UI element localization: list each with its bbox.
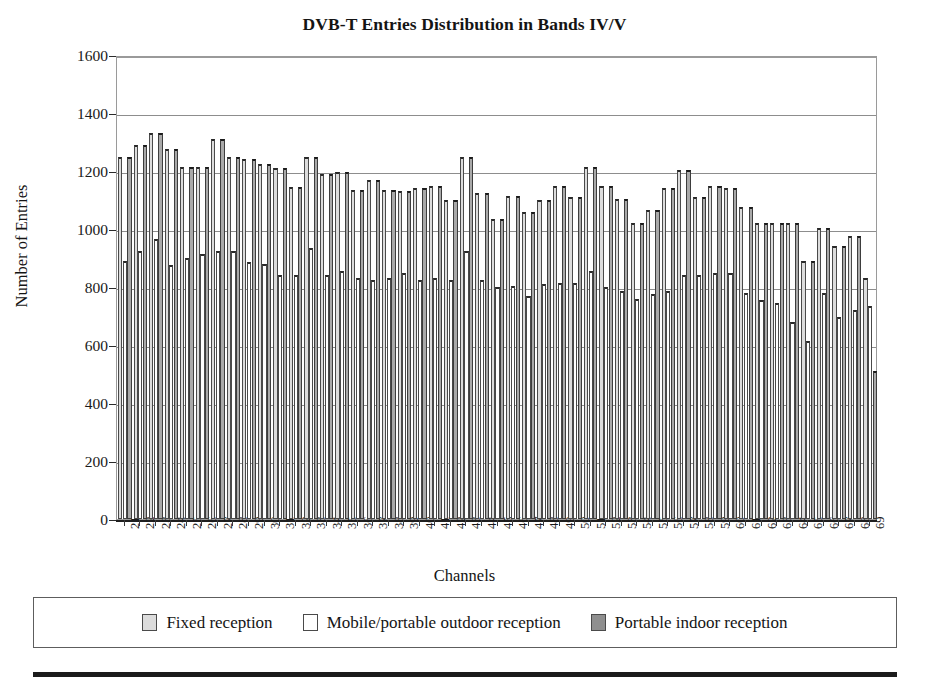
legend-label: Fixed reception <box>166 613 272 633</box>
y-axis-title: Number of Entries <box>12 76 32 416</box>
bar <box>646 210 650 519</box>
y-tick-mark <box>109 114 116 115</box>
x-tick-mark <box>683 520 684 526</box>
bar <box>189 167 193 519</box>
bar <box>686 170 690 519</box>
x-tick-mark <box>357 520 358 526</box>
bar <box>418 280 422 519</box>
x-tick-mark <box>823 520 824 526</box>
x-tick-mark <box>186 520 187 526</box>
bar <box>227 157 231 520</box>
bar <box>356 278 360 519</box>
bar <box>314 157 318 520</box>
x-tick-mark <box>636 520 637 526</box>
bar <box>262 264 266 519</box>
bar <box>671 188 675 519</box>
bar <box>320 174 324 519</box>
bar <box>811 261 815 519</box>
bar <box>267 164 271 519</box>
plot-area <box>116 56 877 520</box>
bar <box>522 212 526 519</box>
bar <box>717 186 721 520</box>
bar <box>655 210 659 519</box>
x-tick-mark <box>854 520 855 526</box>
y-tick-label: 0 <box>26 511 108 529</box>
bar <box>780 223 784 519</box>
x-tick-mark <box>714 520 715 526</box>
bar <box>387 278 391 519</box>
bar <box>662 188 666 519</box>
x-tick-mark <box>838 520 839 526</box>
bar <box>460 157 464 520</box>
x-tick-mark <box>295 520 296 526</box>
bar <box>127 157 131 520</box>
bar <box>837 317 841 519</box>
bar <box>728 273 732 520</box>
bar <box>868 306 872 519</box>
bar <box>138 251 142 519</box>
x-axis-title: Channels <box>0 566 929 586</box>
y-tick-label: 1400 <box>26 105 108 123</box>
chart-legend: Fixed receptionMobile/portable outdoor r… <box>33 597 897 648</box>
x-tick-mark <box>729 520 730 526</box>
bar <box>407 191 411 519</box>
bar <box>526 296 530 519</box>
bar <box>200 254 204 519</box>
x-tick-mark <box>434 520 435 526</box>
bar <box>615 199 619 519</box>
x-tick-mark <box>248 520 249 526</box>
bar <box>775 303 779 519</box>
bar <box>196 167 200 519</box>
gridline <box>117 57 876 58</box>
x-tick-mark <box>605 520 606 526</box>
x-tick-mark <box>201 520 202 526</box>
bar <box>118 157 122 520</box>
y-tick-mark <box>109 56 116 57</box>
bar <box>786 223 790 519</box>
bar <box>298 187 302 519</box>
x-tick-mark <box>776 520 777 526</box>
y-tick-label: 1000 <box>26 221 108 239</box>
y-tick-mark <box>109 288 116 289</box>
bar <box>180 167 184 519</box>
bar <box>744 293 748 519</box>
bar <box>708 186 712 520</box>
legend-item: Fixed reception <box>142 613 272 633</box>
x-tick-mark <box>512 520 513 526</box>
bar <box>863 278 867 519</box>
bar <box>449 280 453 519</box>
bar <box>252 159 256 519</box>
y-tick-mark <box>109 230 116 231</box>
bar <box>273 168 277 519</box>
x-tick-mark <box>450 520 451 526</box>
figure: DVB-T Entries Distribution in Bands IV/V… <box>0 0 929 688</box>
x-tick-mark <box>745 520 746 526</box>
y-tick-mark <box>109 520 116 521</box>
bar <box>578 197 582 519</box>
bar <box>143 145 147 519</box>
bar <box>755 223 759 519</box>
y-tick-label: 600 <box>26 337 108 355</box>
bar <box>584 167 588 519</box>
bar <box>149 133 153 519</box>
legend-swatch-mobile <box>303 614 318 631</box>
bar <box>376 180 380 519</box>
legend-swatch-fixed <box>142 614 157 631</box>
bar <box>309 248 313 519</box>
bar <box>817 228 821 519</box>
bar <box>553 186 557 520</box>
bar <box>402 273 406 520</box>
bar <box>433 278 437 519</box>
bar <box>258 164 262 519</box>
bar <box>542 284 546 519</box>
bar <box>216 251 220 519</box>
bar <box>351 190 355 519</box>
bar <box>593 167 597 519</box>
bar <box>749 207 753 519</box>
bar <box>242 159 246 519</box>
bar <box>398 191 402 519</box>
x-tick-mark <box>170 520 171 526</box>
x-tick-mark <box>403 520 404 526</box>
bar <box>491 219 495 519</box>
x-tick-mark <box>698 520 699 526</box>
